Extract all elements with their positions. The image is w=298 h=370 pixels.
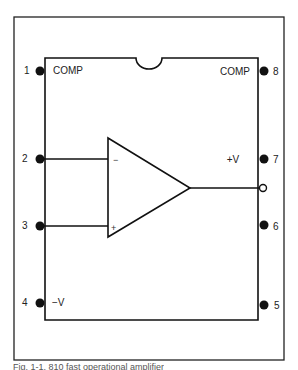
- pin-4-dot: [36, 299, 45, 308]
- pin-7-dot: [260, 155, 269, 164]
- pin-3-dot: [36, 222, 45, 231]
- pin-8-number: 8: [273, 66, 279, 77]
- output-terminal-icon: [260, 185, 267, 192]
- pin-5-number: 5: [274, 300, 280, 311]
- opamp-triangle: [108, 138, 190, 237]
- pin-2-number: 2: [22, 153, 28, 164]
- figure-caption: Fig. 1-1. 810 fast operational amplifier: [13, 363, 164, 370]
- inverting-sign: −: [113, 155, 118, 165]
- pin-4-number: 4: [22, 297, 28, 308]
- pin-3-number: 3: [22, 220, 28, 231]
- chip-body: [45, 58, 258, 320]
- pin-1-number: 1: [24, 65, 30, 76]
- pin-1-label: COMP: [53, 65, 83, 76]
- pin-1-dot: [36, 67, 45, 76]
- pin-8-dot: [260, 67, 269, 76]
- pin-5-dot: [260, 301, 269, 310]
- noninverting-sign: +: [111, 223, 116, 233]
- pin-6-dot: [260, 221, 269, 230]
- pin-2-dot: [36, 155, 45, 164]
- pin-4-label: −V: [52, 297, 65, 308]
- pin-7-number: 7: [273, 154, 279, 165]
- pin-8-label: COMP: [220, 66, 250, 77]
- opamp-pinout-diagram: 1 2 3 4 5 6 7 8 COMP −V +V COMP − +: [0, 0, 298, 370]
- pin-7-label: +V: [227, 154, 240, 165]
- pin-6-number: 6: [273, 221, 279, 232]
